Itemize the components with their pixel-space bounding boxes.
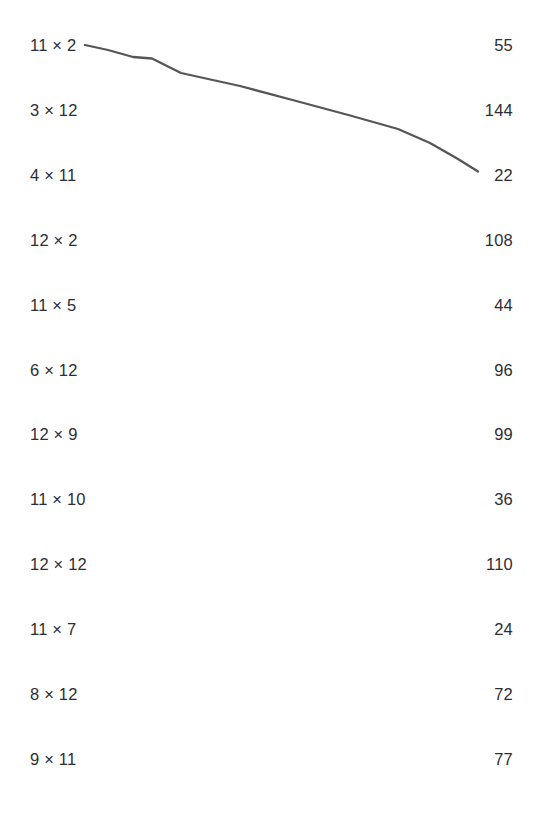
expression-item[interactable]: 8 × 12: [30, 681, 78, 707]
expression-item[interactable]: 12 × 9: [30, 421, 78, 447]
expression-item[interactable]: 11 × 7: [30, 616, 76, 642]
product-item[interactable]: 96: [494, 357, 513, 383]
expression-item[interactable]: 11 × 2: [30, 32, 76, 58]
expression-item[interactable]: 9 × 11: [30, 746, 76, 772]
product-item[interactable]: 99: [494, 421, 513, 447]
product-item[interactable]: 72: [494, 681, 513, 707]
expressions-column: 11 × 2 3 × 12 4 × 11 12 × 2 11 × 5 6 × 1…: [0, 0, 268, 816]
expression-item[interactable]: 11 × 5: [30, 292, 76, 318]
product-item[interactable]: 110: [486, 551, 513, 577]
expression-item[interactable]: 3 × 12: [30, 97, 78, 123]
expression-item[interactable]: 12 × 2: [30, 227, 78, 253]
product-item[interactable]: 55: [494, 32, 513, 58]
worksheet-canvas: 11 × 2 3 × 12 4 × 11 12 × 2 11 × 5 6 × 1…: [0, 0, 536, 816]
expression-item[interactable]: 11 × 10: [30, 486, 86, 512]
product-item[interactable]: 77: [494, 746, 513, 772]
product-item[interactable]: 22: [494, 162, 513, 188]
product-item[interactable]: 36: [494, 486, 513, 512]
product-item[interactable]: 144: [485, 97, 513, 123]
products-column: 55 144 22 108 44 96 99 36 110 24 72 77: [268, 0, 536, 816]
expression-item[interactable]: 6 × 12: [30, 357, 78, 383]
expression-item[interactable]: 4 × 11: [30, 162, 76, 188]
product-item[interactable]: 108: [485, 227, 513, 253]
product-item[interactable]: 24: [494, 616, 513, 642]
expression-item[interactable]: 12 × 12: [30, 551, 87, 577]
product-item[interactable]: 44: [494, 292, 513, 318]
